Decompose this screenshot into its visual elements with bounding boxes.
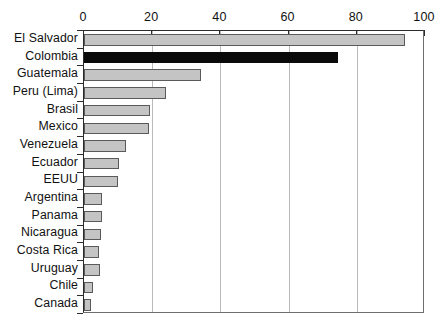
- category-label: Argentina: [5, 190, 83, 204]
- plot-area: [83, 30, 424, 313]
- bar: [84, 264, 100, 276]
- category-label: Guatemala: [5, 66, 83, 80]
- category-label: Ecuador: [5, 155, 83, 169]
- category-label: Brasil: [5, 102, 83, 116]
- y-tick-mark: [77, 313, 83, 314]
- x-tick-label: 20: [144, 10, 158, 24]
- bar: [84, 52, 338, 64]
- category-label: Chile: [5, 278, 83, 292]
- bar: [84, 69, 201, 81]
- bar: [84, 123, 149, 135]
- category-label: Peru (Lima): [5, 84, 83, 98]
- gridline: [289, 31, 290, 312]
- category-label: El Salvador: [5, 31, 83, 45]
- category-label: Costa Rica: [5, 243, 83, 257]
- gridline: [220, 31, 221, 312]
- category-axis-labels: El SalvadorColombiaGuatemalaPeru (Lima)B…: [0, 30, 83, 313]
- category-label: Canada: [5, 296, 83, 310]
- bar: [84, 229, 101, 241]
- x-tick-label: 100: [413, 10, 434, 24]
- bar: [84, 282, 93, 294]
- x-tick-label: 40: [212, 10, 226, 24]
- category-label: Nicaragua: [5, 225, 83, 239]
- gridline: [357, 31, 358, 312]
- bar: [84, 34, 405, 46]
- x-tick-label: 80: [349, 10, 363, 24]
- bar: [84, 176, 118, 188]
- x-tick-mark: [424, 30, 425, 36]
- x-tick-label: 0: [79, 10, 86, 24]
- chart-root: 020406080100 El SalvadorColombiaGuatemal…: [0, 0, 438, 327]
- category-label: Mexico: [5, 119, 83, 133]
- category-label: EEUU: [5, 172, 83, 186]
- category-label: Panama: [5, 208, 83, 222]
- category-label: Colombia: [5, 49, 83, 63]
- bar: [84, 140, 126, 152]
- bar: [84, 158, 119, 170]
- bar: [84, 211, 102, 223]
- x-tick-label: 60: [280, 10, 294, 24]
- category-label: Uruguay: [5, 261, 83, 275]
- category-label: Venezuela: [5, 137, 83, 151]
- bar: [84, 105, 150, 117]
- bar: [84, 193, 102, 205]
- bar: [84, 87, 166, 99]
- bar: [84, 299, 91, 311]
- bar: [84, 246, 99, 258]
